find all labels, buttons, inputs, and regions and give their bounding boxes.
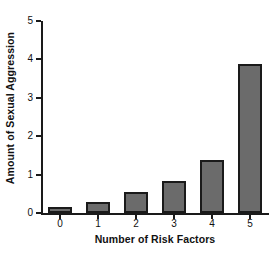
x-tick-label: 4 xyxy=(209,219,215,229)
y-axis-label: Amount of Sexual Aggression xyxy=(0,0,20,215)
x-axis-label: Number of Risk Factors xyxy=(41,233,269,245)
bar xyxy=(238,64,262,213)
y-tick-label: 4 xyxy=(27,54,33,64)
bar xyxy=(200,160,224,213)
x-tick-label: 5 xyxy=(247,219,253,229)
x-tick-label: 0 xyxy=(57,219,63,229)
plot-area: 012345 012345 xyxy=(41,21,269,213)
bar xyxy=(48,207,72,213)
y-tick-label: 3 xyxy=(27,93,33,103)
y-tick-label: 1 xyxy=(27,170,33,180)
bar xyxy=(86,202,110,213)
y-tick-label: 5 xyxy=(27,16,33,26)
y-tick: 4 xyxy=(36,58,41,60)
x-tick-label: 1 xyxy=(95,219,101,229)
y-tick-label: 2 xyxy=(27,131,33,141)
x-tick-label: 2 xyxy=(133,219,139,229)
bar-chart-figure: Amount of Sexual Aggression 012345 01234… xyxy=(0,0,279,256)
y-tick: 2 xyxy=(36,135,41,137)
x-axis-line xyxy=(41,213,269,215)
y-axis-line xyxy=(41,21,43,213)
bar xyxy=(124,192,148,213)
y-axis-label-text: Amount of Sexual Aggression xyxy=(4,31,16,183)
y-tick: 0 xyxy=(36,212,41,214)
bar xyxy=(162,181,186,213)
x-tick-label: 3 xyxy=(171,219,177,229)
y-tick-label: 0 xyxy=(27,208,33,218)
y-tick: 3 xyxy=(36,97,41,99)
y-tick: 1 xyxy=(36,174,41,176)
y-tick: 5 xyxy=(36,20,41,22)
